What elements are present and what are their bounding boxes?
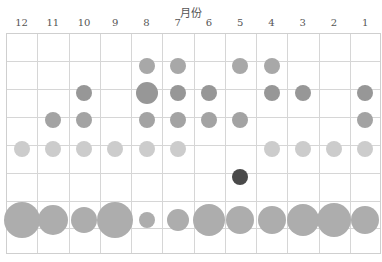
month-label: 10 xyxy=(69,17,100,28)
month-label: 3 xyxy=(287,17,318,28)
bubble xyxy=(76,141,92,157)
bubble xyxy=(14,141,30,157)
bubble xyxy=(351,206,379,234)
bubble xyxy=(170,85,186,101)
bubble xyxy=(170,58,186,74)
bubble xyxy=(295,141,311,157)
month-label: 12 xyxy=(6,17,37,28)
bubble xyxy=(139,141,155,157)
month-label: 4 xyxy=(256,17,287,28)
grid-line xyxy=(7,61,380,62)
bubble xyxy=(326,141,342,157)
bubble xyxy=(170,112,186,128)
month-label: 7 xyxy=(162,17,193,28)
month-label: 11 xyxy=(37,17,68,28)
bubble xyxy=(4,202,40,238)
bubble xyxy=(201,85,217,101)
grid-line xyxy=(69,34,70,253)
bubble xyxy=(232,112,248,128)
bubble xyxy=(264,141,280,157)
bubble xyxy=(107,141,123,157)
grid-line xyxy=(7,201,380,202)
grid-line xyxy=(7,173,380,174)
bubble xyxy=(193,204,225,236)
bubble xyxy=(264,85,280,101)
bubble xyxy=(232,58,248,74)
bubble xyxy=(38,205,68,235)
bubble xyxy=(287,204,319,236)
bubble xyxy=(317,203,351,237)
month-label: 6 xyxy=(194,17,225,28)
bubble xyxy=(357,141,373,157)
bubble xyxy=(97,202,133,238)
bubble xyxy=(201,112,217,128)
bubble xyxy=(357,85,373,101)
grid-line xyxy=(7,117,380,118)
bubble xyxy=(295,85,311,101)
bubble xyxy=(357,112,373,128)
bubble xyxy=(139,212,155,228)
month-label: 1 xyxy=(350,17,381,28)
month-label: 2 xyxy=(319,17,350,28)
bubble-chart: 月份 121110987654321 xyxy=(0,0,382,262)
bubble xyxy=(167,209,189,231)
bubble xyxy=(45,112,61,128)
bubble xyxy=(76,112,92,128)
bubble xyxy=(139,58,155,74)
grid-line xyxy=(7,89,380,90)
month-label: 5 xyxy=(225,17,256,28)
bubble xyxy=(226,206,254,234)
bubble xyxy=(76,85,92,101)
bubble xyxy=(45,141,61,157)
bubble xyxy=(170,141,186,157)
bubble xyxy=(264,58,280,74)
month-label: 9 xyxy=(100,17,131,28)
grid-line xyxy=(7,145,380,146)
bubble xyxy=(71,207,97,233)
bubble xyxy=(136,82,158,104)
bubble xyxy=(139,112,155,128)
month-label: 8 xyxy=(131,17,162,28)
bubble xyxy=(232,169,248,185)
grid-line xyxy=(162,34,163,253)
bubble xyxy=(258,206,286,234)
